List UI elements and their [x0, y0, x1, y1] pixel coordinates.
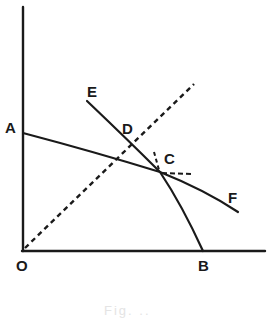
label-O: O — [16, 258, 28, 273]
label-B: B — [198, 258, 209, 273]
label-C: C — [164, 151, 175, 166]
label-F: F — [228, 190, 237, 205]
label-E: E — [87, 84, 97, 99]
label-A: A — [5, 120, 16, 135]
dashed-tangent-horizontal-at-C — [162, 173, 191, 174]
label-D: D — [122, 121, 133, 136]
curve-EB — [87, 101, 203, 251]
figure-caption: Fig. .. — [104, 303, 151, 318]
